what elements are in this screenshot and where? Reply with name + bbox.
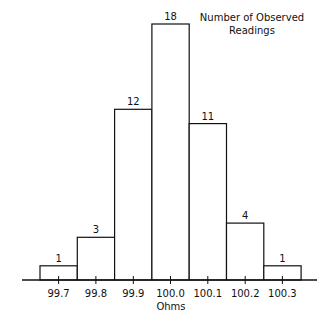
x-tick-label: 100.2 <box>231 288 260 299</box>
bar-value-label: 1 <box>279 253 285 264</box>
histogram-chart: 1312181141 99.799.899.9100.0100.1100.210… <box>0 0 330 325</box>
bar-value-label: 3 <box>93 224 99 235</box>
histogram-bar <box>115 109 152 280</box>
bar-value-label: 18 <box>164 11 177 22</box>
bar-value-label: 1 <box>55 253 61 264</box>
x-tick-label: 99.9 <box>122 288 144 299</box>
histogram-bar <box>152 24 189 280</box>
x-tick-label: 99.8 <box>85 288 107 299</box>
histogram-bar <box>189 124 226 280</box>
histogram-bar <box>227 223 264 280</box>
histogram-bar <box>77 237 114 280</box>
bar-value-label: 11 <box>201 111 214 122</box>
bars: 1312181141 <box>40 11 301 280</box>
x-tick-label: 99.7 <box>47 288 69 299</box>
bar-value-label: 4 <box>242 210 248 221</box>
x-axis-label: Ohms <box>156 301 185 312</box>
x-tick-label: 100.0 <box>156 288 185 299</box>
bar-value-label: 12 <box>127 96 140 107</box>
x-tick-label: 100.1 <box>193 288 222 299</box>
x-tick-label: 100.3 <box>268 288 297 299</box>
